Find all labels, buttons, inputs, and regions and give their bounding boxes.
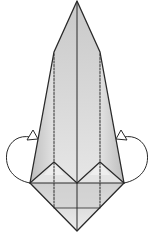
- left-arrowhead-icon: [27, 130, 38, 140]
- right-arrowhead-icon: [116, 130, 127, 140]
- origami-diagram-svg: [0, 0, 155, 247]
- origami-diagram: [0, 0, 155, 247]
